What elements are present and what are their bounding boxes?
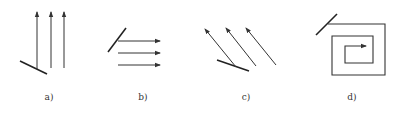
- label-b: b): [138, 92, 147, 102]
- spiral-path: [328, 24, 385, 75]
- panel-b: [108, 28, 160, 65]
- mirror-line: [20, 61, 47, 74]
- panel-d: [316, 14, 385, 75]
- panel-a: [20, 12, 64, 74]
- label-a: a): [45, 92, 54, 102]
- diagram-canvas: [0, 0, 405, 115]
- label-d: d): [347, 92, 356, 102]
- mirror-line: [108, 28, 126, 52]
- panel-c: [205, 28, 276, 71]
- label-c: c): [242, 92, 251, 102]
- mirror-line: [217, 60, 249, 71]
